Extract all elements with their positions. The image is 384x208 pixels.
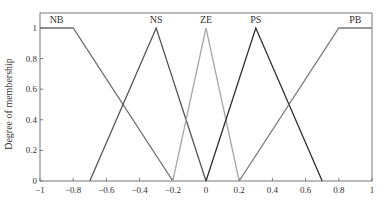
- series-ps-line: [206, 28, 322, 181]
- series-nb-line: [40, 28, 173, 181]
- y-tick-label: 0.6: [26, 84, 38, 94]
- x-tick-label: −0.6: [98, 185, 115, 195]
- y-tick-label: 0.4: [26, 115, 38, 125]
- series-ze-label: ZE: [200, 14, 212, 25]
- x-tick-label: −1: [35, 185, 45, 195]
- x-tick-label: 0: [204, 185, 209, 195]
- series-pb-line: [239, 28, 372, 181]
- y-tick-label: 1: [33, 23, 38, 33]
- series-lines: [40, 28, 372, 181]
- y-tick-label: 0.2: [26, 145, 37, 155]
- x-tick-label: 0.4: [267, 185, 279, 195]
- x-tick-label: −0.8: [65, 185, 82, 195]
- y-tick-label: 0: [33, 176, 38, 186]
- series-ps-label: PS: [250, 14, 261, 25]
- chart-canvas: −1−0.8−0.6−0.4−0.200.20.40.60.8100.20.40…: [0, 0, 384, 208]
- axes: −1−0.8−0.6−0.4−0.200.20.40.60.8100.20.40…: [26, 13, 375, 195]
- x-tick-label: 0.6: [300, 185, 312, 195]
- y-axis-label: Degree of membership: [3, 58, 14, 150]
- series-ze-line: [173, 28, 239, 181]
- series-pb-label: PB: [349, 14, 362, 25]
- x-tick-label: −0.4: [131, 185, 148, 195]
- x-tick-label: −0.2: [165, 185, 181, 195]
- series-ns-label: NS: [150, 14, 163, 25]
- x-tick-label: 1: [370, 185, 375, 195]
- x-tick-label: 0.2: [234, 185, 245, 195]
- plot-frame: [40, 13, 372, 181]
- series-nb-label: NB: [50, 14, 64, 25]
- x-tick-label: 0.8: [333, 185, 345, 195]
- y-tick-label: 0.8: [26, 54, 38, 64]
- series-ns-line: [90, 28, 206, 181]
- membership-function-chart: −1−0.8−0.6−0.4−0.200.20.40.60.8100.20.40…: [0, 0, 384, 208]
- series-labels: NBNSZEPSPB: [50, 14, 362, 25]
